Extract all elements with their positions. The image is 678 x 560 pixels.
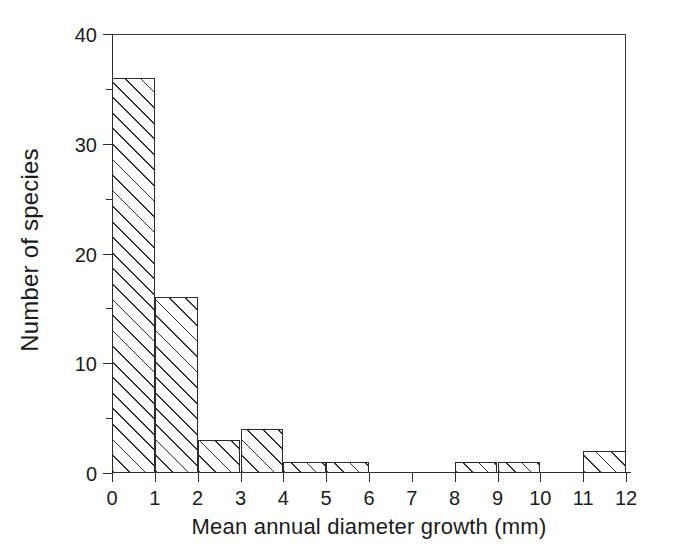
x-axis-tick-label: 9 [492,487,503,510]
bar [283,462,326,473]
x-axis-tick-label: 3 [235,487,246,510]
x-axis-tick-label: 12 [615,487,637,510]
x-axis-tick-label: 5 [321,487,332,510]
x-axis-tick-label: 7 [406,487,417,510]
bar [326,462,369,473]
x-axis-tick-label: 0 [106,487,117,510]
x-axis-title: Mean annual diameter growth (mm) [112,514,626,540]
x-axis-tick-label: 8 [449,487,460,510]
plot-area: 010203040 0123456789101112 [112,34,626,473]
x-axis-tick-label: 1 [149,487,160,510]
y-axis-tick-label: 40 [75,24,97,46]
bar [155,297,198,473]
y-axis-tick: 40 [103,34,112,35]
x-axis-tick [326,473,327,482]
x-axis-tick [540,473,541,482]
x-axis-tick [369,473,370,482]
y-axis-tick: 0 [103,473,112,474]
y-axis-tick: 30 [103,144,112,145]
bar [112,78,155,473]
x-axis-tick [112,473,113,482]
x-axis-tick [241,473,242,482]
x-axis-tick [412,473,413,482]
bar [241,429,284,473]
bar [198,440,241,473]
plot-frame-top [112,34,626,35]
histogram-figure: Number of species 010203040 012345678910… [0,0,678,560]
x-axis-tick-label: 2 [192,487,203,510]
y-axis-minor-tick [106,89,112,90]
x-axis-tick-label: 4 [278,487,289,510]
x-axis-tick [198,473,199,482]
y-axis-tick: 10 [103,363,112,364]
x-axis-tick [155,473,156,482]
x-axis-tick [283,473,284,482]
y-axis-minor-tick [106,418,112,419]
bar [583,451,626,473]
y-axis-tick-label: 20 [75,244,97,266]
x-axis-tick-label: 6 [363,487,374,510]
x-axis-tick [626,473,627,482]
y-axis-minor-tick [106,308,112,309]
x-axis-tick [583,473,584,482]
plot-frame-right [625,34,626,473]
x-axis-tick [498,473,499,482]
bar [498,462,541,473]
y-axis-title: Number of species [0,0,60,500]
y-axis-tick-label: 0 [86,463,97,485]
y-axis-minor-tick [106,199,112,200]
bar [455,462,498,473]
y-axis-tick: 20 [103,254,112,255]
y-axis-title-text: Number of species [16,148,44,352]
x-axis-tick-label: 10 [529,487,551,510]
y-axis-tick-label: 30 [75,134,97,156]
x-axis-tick-label: 11 [573,487,594,510]
y-axis-tick-label: 10 [75,353,97,375]
x-axis-tick [455,473,456,482]
